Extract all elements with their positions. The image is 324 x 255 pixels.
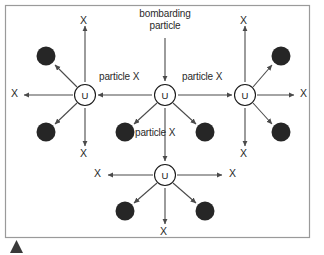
x-label-left-bottom: X	[80, 148, 87, 159]
particle-x-label-left: particle X	[99, 72, 139, 83]
nucleus-label-bottom: U	[160, 171, 170, 181]
nucleus-label-left: U	[80, 91, 90, 101]
x-label-bottom-left: X	[94, 168, 101, 179]
x-label-far-left: X	[11, 88, 18, 99]
x-label-bottom-down: X	[160, 226, 167, 237]
fission-chain-reaction-figure: U U U U bombarding particle particle X p…	[0, 0, 324, 255]
x-label-right-bottom: X	[240, 148, 247, 159]
particle-x-label-right: particle X	[182, 72, 222, 83]
fission-fragment	[116, 202, 135, 221]
fission-fragment	[37, 123, 56, 142]
particle-x-label-bottom: particle X	[135, 128, 175, 139]
x-label-far-right: X	[300, 88, 307, 99]
bombarding-particle-label-line1: bombarding	[130, 9, 200, 20]
fission-fragment	[196, 123, 215, 142]
nucleus-label-right: U	[240, 91, 250, 101]
bombarding-particle-label-line2: particle	[130, 21, 200, 32]
figure-frame	[6, 6, 310, 238]
x-label-right-top: X	[240, 15, 247, 26]
fission-fragment	[116, 123, 135, 142]
bottom-left-triangle-marker	[10, 240, 23, 253]
fission-fragment	[196, 202, 215, 221]
x-label-left-top: X	[80, 15, 87, 26]
fission-fragment	[272, 47, 291, 66]
nucleus-label-center: U	[160, 91, 170, 101]
fission-fragment	[37, 47, 56, 66]
fission-fragment	[272, 123, 291, 142]
x-label-bottom-right: X	[229, 168, 236, 179]
